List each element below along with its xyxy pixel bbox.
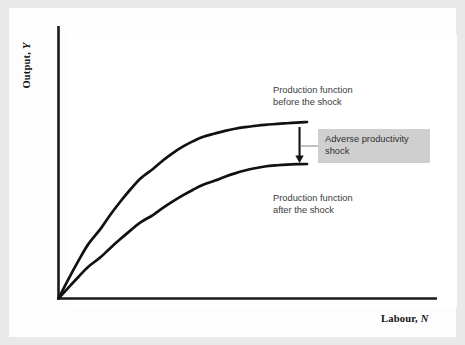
y-axis-title-prefix: Output, bbox=[21, 49, 32, 89]
after-shock-label: Production function after the shock bbox=[273, 193, 353, 216]
x-axis-variable: N bbox=[421, 313, 429, 324]
curve-after-shock bbox=[59, 164, 308, 298]
before-shock-label: Production function before the shock bbox=[273, 85, 353, 108]
production-function-chart bbox=[0, 0, 465, 345]
x-axis-title: Labour, N bbox=[381, 313, 429, 324]
shock-label: Adverse productivity shock bbox=[325, 134, 409, 157]
shock-arrow-head bbox=[295, 156, 303, 164]
x-axis-title-prefix: Labour, bbox=[381, 313, 421, 324]
figure-container: Adverse productivity shock Production fu… bbox=[0, 0, 465, 345]
y-axis-title: Output, Y bbox=[21, 31, 32, 101]
y-axis-variable: Y bbox=[21, 42, 32, 49]
curve-before-shock bbox=[59, 122, 308, 299]
